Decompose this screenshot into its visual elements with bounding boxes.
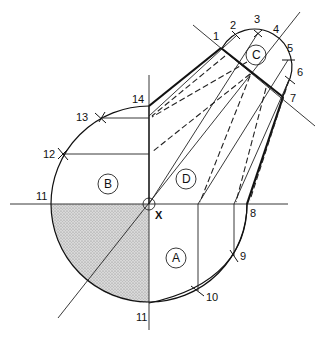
shaded-quadrant (51, 204, 149, 303)
region-c-label: C (252, 48, 261, 62)
label-point-7: 7 (290, 92, 296, 104)
label-point-14: 14 (132, 93, 144, 105)
label-point-13: 13 (76, 111, 88, 123)
label-point-8: 8 (250, 207, 256, 219)
label-point-12: 12 (43, 148, 55, 160)
region-d: D (176, 169, 196, 189)
label-point-10: 10 (206, 291, 218, 303)
label-point-3: 3 (254, 13, 260, 25)
diagonal-axis (58, 12, 300, 318)
label-point-5: 5 (287, 42, 293, 54)
label-point-11-left: 11 (36, 190, 47, 202)
development-diagram: C B D A 1 2 3 4 5 6 7 8 9 10 11 11 12 13… (0, 0, 323, 345)
edge-14-1 (149, 48, 221, 106)
dash-c-10 (200, 76, 250, 202)
line-9-6 (234, 80, 289, 204)
region-b: B (98, 174, 118, 194)
diagram-canvas: C B D A 1 2 3 4 5 6 7 8 9 10 11 11 12 13… (0, 0, 323, 345)
edge-7-8 (247, 97, 283, 204)
region-d-label: D (182, 172, 191, 186)
dash-1-14b (152, 56, 225, 116)
line-10-5 (198, 60, 288, 204)
dash-6-8 (250, 80, 289, 200)
label-point-9: 9 (240, 250, 246, 262)
dash-7-9 (236, 88, 266, 202)
region-a-label: A (172, 251, 180, 265)
label-point-6: 6 (297, 66, 303, 78)
region-a: A (166, 248, 186, 268)
dash-c-13 (152, 62, 247, 117)
region-c: C (246, 45, 266, 65)
label-point-4: 4 (273, 23, 279, 35)
label-point-11-bottom: 11 (136, 311, 147, 323)
region-b-label: B (104, 177, 112, 191)
label-point-2: 2 (230, 19, 236, 31)
label-center-x: X (155, 209, 163, 221)
line-x-3 (149, 33, 258, 204)
label-point-1: 1 (213, 30, 219, 42)
